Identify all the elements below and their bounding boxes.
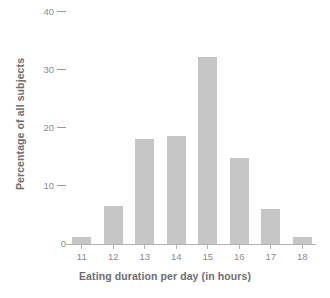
x-tick-mark [176,245,177,249]
y-tick-label: 10 [43,180,54,191]
bar-chart-figure: Percentage of all subjects 010203040 111… [0,0,330,298]
x-tick-13: 13 [130,245,160,262]
y-tick-40: 40 [20,6,66,17]
bar-12 [104,206,123,244]
y-tick-mark [57,127,66,128]
x-tick-mark [302,245,303,249]
bar-11 [72,237,91,244]
x-tick-mark [81,245,82,249]
x-tick-label: 18 [287,251,317,262]
y-tick-label: 40 [43,6,54,17]
y-tick-20: 20 [20,122,66,133]
x-tick-mark [239,245,240,249]
y-tick-mark [57,11,66,12]
x-tick-label: 11 [67,251,97,262]
x-tick-18: 18 [287,245,317,262]
y-tick-label: 30 [43,64,54,75]
bar-14 [167,136,186,244]
bar-15 [198,57,217,244]
bar-18 [293,237,312,244]
x-tick-label: 14 [161,251,191,262]
x-tick-16: 16 [224,245,254,262]
x-tick-label: 17 [256,251,286,262]
y-axis-ticks: 010203040 [0,0,66,298]
x-tick-label: 16 [224,251,254,262]
x-tick-label: 15 [193,251,223,262]
x-tick-label: 12 [98,251,128,262]
x-axis-title: Eating duration per day (in hours) [0,270,330,282]
x-axis-ticks: 1112131415161718 [66,245,318,267]
bar-16 [230,158,249,244]
y-tick-mark [57,69,66,70]
x-tick-label: 13 [130,251,160,262]
x-tick-mark [270,245,271,249]
x-tick-11: 11 [67,245,97,262]
x-tick-mark [207,245,208,249]
y-tick-0: 0 [20,238,66,249]
bar-13 [135,139,154,244]
plot-area [66,4,318,244]
bar-17 [261,209,280,244]
y-tick-30: 30 [20,64,66,75]
x-tick-mark [144,245,145,249]
y-tick-mark [57,185,66,186]
x-tick-15: 15 [193,245,223,262]
x-tick-14: 14 [161,245,191,262]
y-tick-10: 10 [20,180,66,191]
x-tick-17: 17 [256,245,286,262]
x-tick-12: 12 [98,245,128,262]
x-tick-mark [113,245,114,249]
y-tick-label: 20 [43,122,54,133]
